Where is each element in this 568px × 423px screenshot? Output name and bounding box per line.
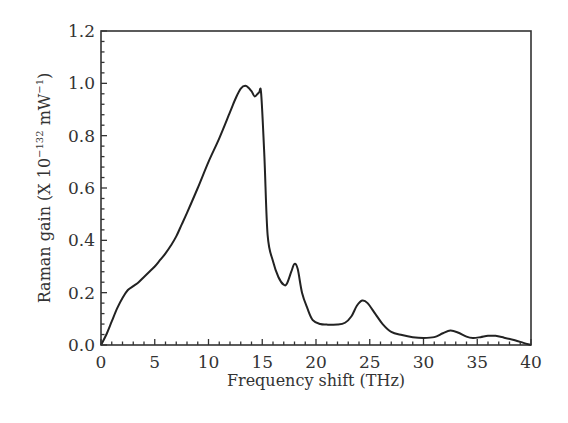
y-tick-label: 0.8 bbox=[68, 126, 95, 146]
raman-gain-chart: 0510152025303540 0.00.20.40.60.81.01.2 F… bbox=[0, 0, 568, 423]
x-tick-label: 40 bbox=[520, 352, 542, 372]
x-axis-title: Frequency shift (THz) bbox=[227, 371, 405, 390]
y-tick-label: 0.2 bbox=[68, 283, 95, 303]
x-tick-label: 10 bbox=[198, 352, 220, 372]
y-tick-label: 1.2 bbox=[68, 21, 95, 41]
y-tick-label: 0.0 bbox=[68, 335, 95, 355]
x-tick-label: 0 bbox=[96, 352, 107, 372]
plot-frame bbox=[101, 31, 531, 345]
x-tick-label: 5 bbox=[149, 352, 160, 372]
y-tick-label: 0.6 bbox=[68, 178, 95, 198]
x-tick-label: 30 bbox=[413, 352, 435, 372]
x-tick-label: 15 bbox=[251, 352, 273, 372]
x-axis: 0510152025303540 bbox=[96, 339, 542, 372]
x-tick-label: 25 bbox=[359, 352, 381, 372]
y-axis-title: Raman gain (X 10−132 mW−1) bbox=[34, 73, 54, 304]
y-tick-label: 1.0 bbox=[68, 73, 95, 93]
plot-area bbox=[101, 31, 531, 345]
x-tick-label: 20 bbox=[305, 352, 327, 372]
y-tick-label: 0.4 bbox=[68, 230, 95, 250]
raman-gain-curve bbox=[101, 86, 531, 345]
x-tick-label: 35 bbox=[466, 352, 488, 372]
